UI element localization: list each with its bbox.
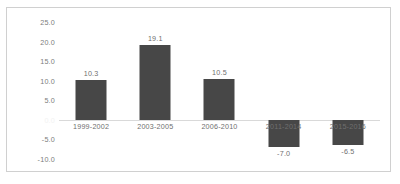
- bar-series: 10.31999-200219.12003-200510.52006-2010-…: [59, 8, 380, 171]
- bar-group: -7.02011-2014: [252, 8, 316, 171]
- bar-value-label: -6.5: [341, 147, 354, 156]
- x-axis-category-label: 2015-2016: [330, 122, 366, 131]
- bar-value-label: 10.5: [212, 68, 227, 77]
- x-axis-category-label: 2006-2010: [201, 122, 237, 131]
- y-axis-tick-label: 20.0: [15, 37, 55, 46]
- chart-frame: 25.020.015.010.05.00.0-5.0-10.0 10.31999…: [6, 7, 391, 172]
- x-axis-category-label: 1999-2002: [73, 122, 109, 131]
- bar-group: -6.52015-2016: [316, 8, 380, 171]
- bar-group: 10.52006-2010: [187, 8, 251, 171]
- plot-area: 25.020.015.010.05.00.0-5.0-10.0 10.31999…: [7, 8, 390, 171]
- y-axis-tick-label: 25.0: [15, 18, 55, 27]
- bar-value-label: -7.0: [277, 149, 290, 158]
- bar-value-label: 10.3: [84, 69, 99, 78]
- y-axis: 25.020.015.010.05.00.0-5.0-10.0: [15, 8, 55, 171]
- y-axis-tick-label: 0.0: [15, 115, 55, 124]
- y-axis-tick-label: 10.0: [15, 76, 55, 85]
- x-axis-category-label: 2011-2014: [266, 122, 302, 131]
- bar-group: 10.31999-2002: [59, 8, 123, 171]
- y-axis-tick-label: -5.0: [15, 135, 55, 144]
- y-axis-tick-label: -10.0: [15, 155, 55, 164]
- bar[interactable]: [204, 79, 235, 120]
- y-axis-tick-label: 5.0: [15, 96, 55, 105]
- y-axis-tick-label: 15.0: [15, 57, 55, 66]
- bar[interactable]: [140, 45, 171, 120]
- x-axis-category-label: 2003-2005: [137, 122, 173, 131]
- bar-value-label: 19.1: [148, 34, 163, 43]
- bar[interactable]: [76, 80, 107, 120]
- bar-group: 19.12003-2005: [123, 8, 187, 171]
